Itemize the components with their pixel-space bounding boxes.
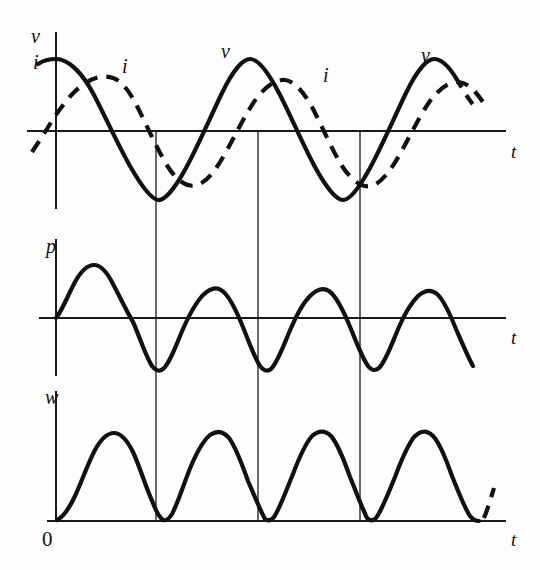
curve-v xyxy=(38,59,456,200)
waveform-figure: v i v i i v t p t w 0 t xyxy=(0,0,540,570)
origin-label: 0 xyxy=(42,527,53,551)
panel-energy: w 0 t xyxy=(42,386,517,551)
panel-p-ylabel: p xyxy=(44,235,56,258)
curve-label-v-2: v xyxy=(421,44,430,66)
panel-power: p t xyxy=(40,235,517,375)
panel-vi-xlabel: t xyxy=(511,141,517,162)
curve-label-i-1: i xyxy=(122,55,128,77)
panel-w-xlabel: t xyxy=(511,529,517,550)
panel-w-ylabel: w xyxy=(45,386,59,408)
figure-page: v i v i i v t p t w 0 t xyxy=(0,0,540,570)
curve-label-v-1: v xyxy=(221,40,230,62)
curve-w xyxy=(57,432,479,522)
curve-w-continuation xyxy=(484,488,494,518)
panel-vi-ylabel-v: v xyxy=(31,25,40,47)
panel-p-xlabel: t xyxy=(511,327,517,348)
panel-vi-ylabel-i: i xyxy=(33,51,39,73)
panel-voltage-current: v i v i i v t xyxy=(28,25,517,208)
curve-label-i-2: i xyxy=(323,64,329,86)
